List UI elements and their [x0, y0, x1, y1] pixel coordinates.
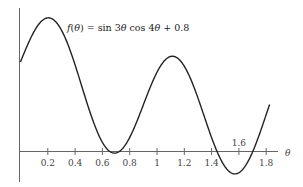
x-axis-ticks: 0.20.40.60.811.21.41.61.8: [41, 138, 274, 168]
x-tick-label: 1.2: [177, 158, 191, 168]
function-plot: 0.20.40.60.811.21.41.61.8 f(θ) = sin 3θ …: [0, 0, 303, 187]
x-tick-label: 0.8: [123, 158, 138, 168]
x-tick-label: 0.4: [68, 158, 83, 168]
x-tick-label: 1.6: [232, 138, 247, 148]
x-axis-label: θ: [285, 148, 291, 158]
x-tick-label: 1.4: [204, 158, 219, 168]
x-tick-label: 1.8: [259, 158, 274, 168]
function-curve: [21, 18, 270, 174]
x-tick-label: 0.2: [41, 158, 55, 168]
x-tick-label: 0.6: [95, 158, 110, 168]
function-formula-label: f(θ) = sin 3θ cos 4θ + 0.8: [66, 22, 189, 33]
x-tick-label: 1: [154, 158, 160, 168]
